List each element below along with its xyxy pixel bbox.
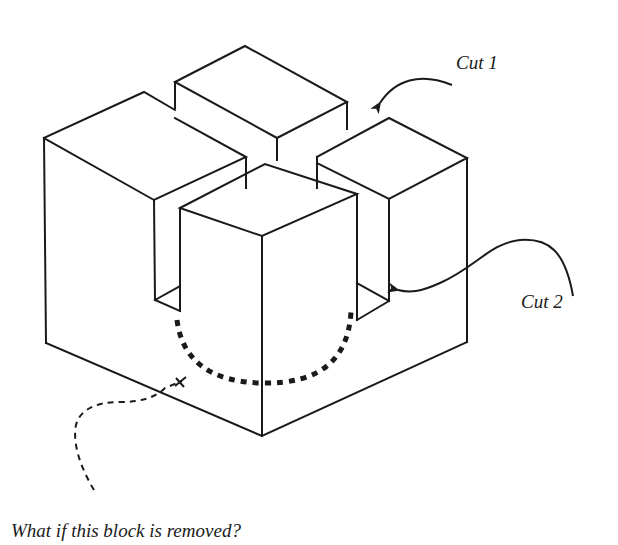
cut-2-label: Cut 2	[521, 291, 563, 313]
left-slot	[155, 286, 180, 311]
cut-1-label: Cut 1	[456, 52, 498, 74]
question-caption: What if this block is removed?	[11, 520, 241, 542]
back-block	[175, 46, 347, 160]
cut-2-arrow	[398, 240, 573, 296]
removal-dashed-arc	[177, 312, 351, 383]
question-dashed-arrow	[75, 381, 182, 490]
right-slot	[357, 283, 389, 320]
cut-1-arrow	[380, 79, 452, 103]
right-block	[317, 118, 467, 342]
front-block	[180, 164, 357, 436]
diagram-canvas: Cut 1 Cut 2 What if this block is remove…	[0, 0, 618, 545]
question-arrow-tip-icon	[175, 377, 186, 387]
block-diagram-svg	[0, 0, 618, 545]
left-block	[44, 92, 246, 343]
base-outline	[46, 342, 467, 436]
